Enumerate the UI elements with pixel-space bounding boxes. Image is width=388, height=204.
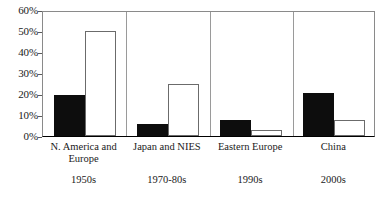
- bar-filled-0: [54, 95, 85, 136]
- plot-inner: [43, 12, 374, 136]
- bar-hollow-0: [85, 31, 116, 136]
- group-separator: [293, 12, 294, 136]
- decade-label: 1990s: [209, 174, 292, 186]
- y-tick-label: 10%: [0, 110, 38, 121]
- group-separator: [126, 12, 127, 136]
- category-label-row: N. America and EuropeJapan and NIESEaste…: [42, 141, 375, 167]
- y-tick-label: 40%: [0, 47, 38, 58]
- decade-label: 1950s: [42, 174, 125, 186]
- bar-hollow-1: [168, 84, 199, 137]
- y-tick-label: 50%: [0, 26, 38, 37]
- y-tick-label: 0%: [0, 131, 38, 142]
- decade-label-row: 1950s1970-80s1990s2000s: [42, 174, 375, 190]
- bar-filled-1: [137, 124, 168, 136]
- bar-hollow-2: [251, 130, 282, 136]
- y-tick-label: 30%: [0, 68, 38, 79]
- decade-label: 2000s: [292, 174, 375, 186]
- plot-area: [42, 11, 375, 137]
- y-axis: 0%10%20%30%40%50%60%: [0, 0, 38, 204]
- category-label: China: [292, 141, 375, 153]
- y-tick-label: 60%: [0, 5, 38, 16]
- bar-hollow-3: [334, 120, 365, 136]
- y-tick-mark: [38, 137, 42, 138]
- bar-chart: 0%10%20%30%40%50%60% N. America and Euro…: [0, 0, 388, 204]
- bar-filled-3: [303, 93, 334, 136]
- category-label: N. America and Europe: [42, 141, 125, 165]
- group-separator: [210, 12, 211, 136]
- category-label: Eastern Europe: [209, 141, 292, 153]
- y-tick-label: 20%: [0, 89, 38, 100]
- decade-label: 1970-80s: [125, 174, 208, 186]
- category-label: Japan and NIES: [125, 141, 208, 153]
- bar-filled-2: [220, 120, 251, 136]
